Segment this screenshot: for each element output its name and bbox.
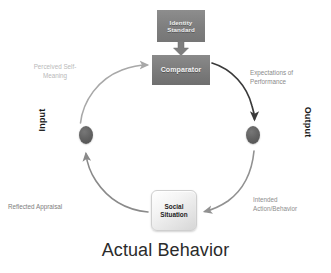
arc-intended-action-behavior	[205, 151, 254, 212]
identity-standard-box: Identity Standard	[157, 10, 205, 42]
output-node	[246, 126, 260, 144]
input-axis-label: Input	[37, 100, 47, 140]
reflected-appraisal-label: Reflected Appraisal	[8, 202, 100, 211]
output-axis-label: Output	[303, 97, 313, 147]
down-block-arrow-icon	[172, 41, 190, 56]
diagram-canvas: Identity Standard Comparator Social Situ…	[0, 0, 331, 273]
arc-expectations-of-performance	[212, 63, 255, 119]
expectations-of-performance-label: Expectations of Performance	[250, 68, 330, 86]
comparator-label: Comparator	[161, 66, 202, 74]
intended-action-behavior-label: Intended Action/Behavior	[253, 195, 331, 213]
perceived-self-meaning-label: Perceived Self- Meaning	[16, 62, 94, 80]
identity-standard-label: Identity Standard	[167, 19, 195, 34]
social-situation-label: Social Situation	[160, 203, 187, 218]
social-situation-box: Social Situation	[151, 190, 197, 231]
comparator-box: Comparator	[152, 55, 210, 85]
diagram-title: Actual Behavior	[0, 240, 331, 261]
input-node	[79, 126, 93, 144]
